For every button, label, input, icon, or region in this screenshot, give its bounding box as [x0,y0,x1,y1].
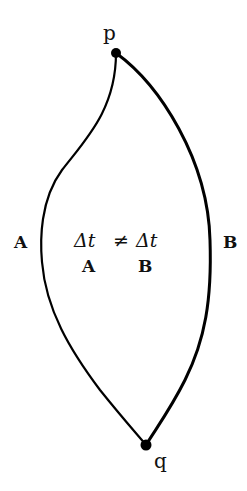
equation-subscript-b: B [138,256,152,276]
point-label-q: q [154,449,167,473]
equation-rhs: Δt [135,229,158,251]
path-label-a: A [13,232,28,252]
worldline-diagram: p q A B Δt ≠ Δt A B [0,0,247,491]
path-label-b: B [223,232,237,252]
equation-lhs: Δt [73,229,96,251]
equation-subscript-a: A [81,256,96,276]
event-point-p [111,48,121,58]
worldline-path-b [116,53,210,445]
event-point-q [141,440,152,451]
equation-relation: ≠ [113,229,129,251]
point-label-p: p [103,21,116,45]
